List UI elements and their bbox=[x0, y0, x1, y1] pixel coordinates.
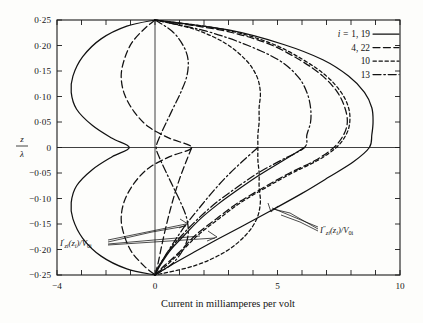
legend: i = 1, 194, 221013 bbox=[338, 29, 399, 80]
annot-right-sub3: 0i bbox=[348, 229, 353, 236]
y-axis-title-numerator: z bbox=[19, 134, 24, 144]
x-tick-labels: −40510 bbox=[52, 281, 405, 291]
y-tick-label: 0·05 bbox=[34, 117, 51, 127]
chart-svg: −40510 0·250·200·150·100·050−0·05−0·10−0… bbox=[0, 0, 423, 323]
annotation-left-leaders bbox=[108, 219, 217, 245]
y-tick-label: −0·05 bbox=[29, 168, 51, 178]
x-tick-label: −4 bbox=[52, 281, 62, 291]
y-axis-title: z λ bbox=[16, 134, 28, 159]
annotation-left-text: I′zi(zi)/V0i bbox=[59, 237, 92, 249]
y-tick-labels: 0·250·200·150·100·050−0·05−0·10−0·15−0·2… bbox=[29, 15, 51, 280]
x-tick-label: 0 bbox=[153, 281, 158, 291]
y-tick-label: 0·15 bbox=[34, 66, 51, 76]
annot-left-sub3: 0i bbox=[87, 242, 92, 249]
legend-label: 10 bbox=[361, 56, 371, 66]
annotation-right-leaders bbox=[268, 203, 318, 231]
y-tick-label: 0 bbox=[46, 143, 51, 153]
legend-label: 13 bbox=[361, 70, 371, 80]
y-tick-label: 0·25 bbox=[34, 15, 51, 25]
y-tick-label: 0·10 bbox=[34, 92, 51, 102]
y-tick-label: −0·10 bbox=[29, 194, 51, 204]
y-tick-label: 0·20 bbox=[34, 41, 51, 51]
x-tick-label: 5 bbox=[275, 281, 280, 291]
chart-figure: −40510 0·250·200·150·100·050−0·05−0·10−0… bbox=[0, 0, 423, 323]
annotation-left-label: I′zi(zi)/V0i bbox=[59, 237, 92, 249]
annotation-right-label: I″zi(zi)/V0i bbox=[319, 224, 353, 236]
legend-label: 4, 22 bbox=[351, 43, 370, 53]
annotation-right-text: I″zi(zi)/V0i bbox=[319, 224, 353, 236]
y-axis-title-denominator: λ bbox=[19, 149, 24, 159]
y-tick-label: −0·15 bbox=[29, 219, 51, 229]
y-tick-label: −0·25 bbox=[29, 270, 51, 280]
x-axis-title: Current in milliamperes per volt bbox=[161, 298, 295, 309]
y-tick-label: −0·20 bbox=[29, 245, 51, 255]
legend-label: i = 1, 19 bbox=[338, 29, 371, 39]
x-tick-label: 10 bbox=[395, 281, 405, 291]
